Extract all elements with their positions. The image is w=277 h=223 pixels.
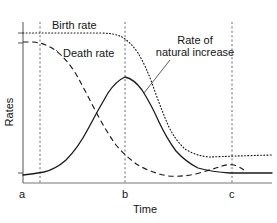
series-label-natural-increase: Rate of natural increase	[152, 34, 238, 58]
series-label-birth-rate: Birth rate	[52, 19, 97, 31]
y-axis-title: Rates	[3, 90, 15, 134]
x-axis-tick-label-b: b	[122, 188, 128, 200]
x-axis-tick-label-a: a	[19, 188, 25, 200]
series-label-natural-increase-line-2: natural increase	[152, 46, 238, 58]
x-axis-tick-label-c: c	[229, 188, 235, 200]
x-axis-title: Time	[115, 203, 175, 215]
death-rate-leader-line	[56, 50, 62, 56]
natural-increase-leader-line	[144, 60, 170, 93]
demographic-transition-chart: Birth rate Death rate Rate of natural in…	[0, 0, 277, 223]
series-label-natural-increase-line-1: Rate of	[152, 34, 238, 46]
death-rate-curve	[23, 42, 244, 176]
series-label-death-rate: Death rate	[63, 47, 114, 59]
natural-increase-curve	[23, 77, 272, 175]
